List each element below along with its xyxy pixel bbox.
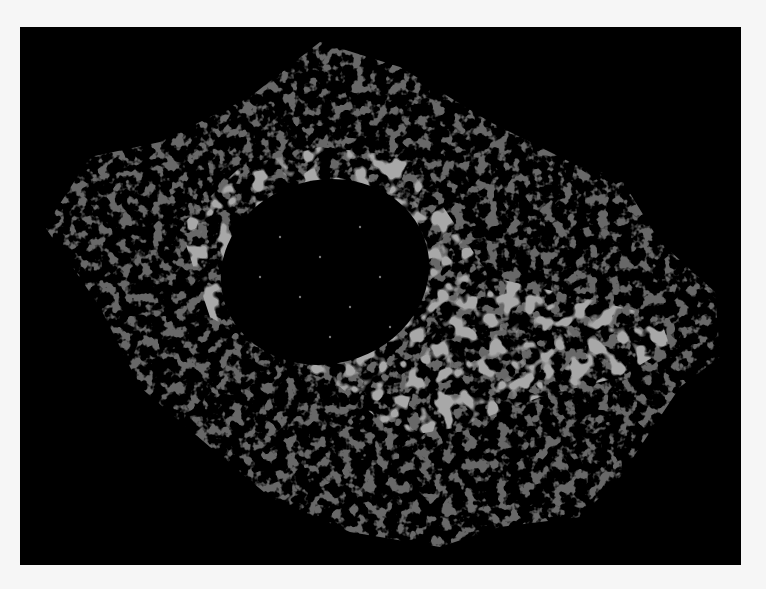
cell-image xyxy=(20,27,741,565)
micrograph-panel xyxy=(20,27,741,565)
